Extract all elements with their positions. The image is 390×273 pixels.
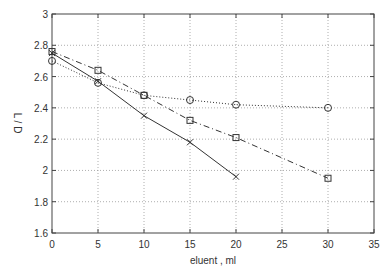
series-crosses <box>49 50 239 180</box>
x-tick-label: 10 <box>138 239 150 250</box>
x-tick-label: 20 <box>230 239 242 250</box>
grid-lines <box>52 14 374 233</box>
x-tick-label: 5 <box>95 239 101 250</box>
y-tick-label: 3 <box>42 9 48 20</box>
x-axis-label: eluent , ml <box>190 255 236 266</box>
y-tick-label: 2.2 <box>34 134 48 145</box>
y-tick-label: 2.8 <box>34 40 48 51</box>
plot-area-frame <box>52 14 374 233</box>
y-tick-label: 1.6 <box>34 228 48 239</box>
x-tick-label: 0 <box>49 239 55 250</box>
x-tick-label: 25 <box>276 239 288 250</box>
y-axis-label: L / D <box>12 113 23 134</box>
y-tick-label: 2.4 <box>34 103 48 114</box>
x-tick-label: 30 <box>322 239 334 250</box>
y-tick-label: 1.8 <box>34 197 48 208</box>
chart: 051015202530351.61.822.22.42.62.83 eluen… <box>0 0 390 273</box>
y-tick-label: 2.6 <box>34 72 48 83</box>
y-tick-label: 2 <box>42 165 48 176</box>
x-tick-label: 15 <box>184 239 196 250</box>
svg-text:L / D: L / D <box>12 113 23 134</box>
x-tick-label: 35 <box>368 239 380 250</box>
